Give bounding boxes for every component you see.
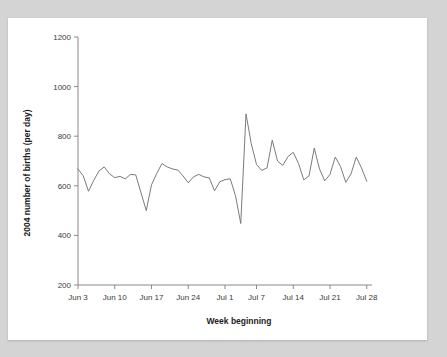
- x-axis-title: Week beginning: [206, 316, 271, 326]
- x-tick-label: Jul 1: [217, 293, 234, 302]
- x-axis: Jun 3Jun 10Jun 17Jun 24Jul 1Jul 7Jul 14J…: [68, 285, 378, 302]
- x-tick-label: Jul 21: [319, 293, 341, 302]
- chart-figure: 20040060080010001200 Jun 3Jun 10Jun 17Ju…: [8, 18, 427, 340]
- y-tick-label: 800: [58, 132, 72, 141]
- y-tick-label: 1000: [53, 83, 71, 92]
- x-tick-label: Jun 17: [139, 293, 164, 302]
- x-tick-label: Jul 14: [283, 293, 305, 302]
- series-births-per-day: [78, 114, 367, 224]
- y-tick-label: 200: [58, 281, 72, 290]
- x-tick-label: Jun 10: [103, 293, 128, 302]
- x-tick-label: Jul 28: [356, 293, 378, 302]
- page-root: 20040060080010001200 Jun 3Jun 10Jun 17Ju…: [0, 0, 447, 357]
- line-chart-icon: 20040060080010001200 Jun 3Jun 10Jun 17Ju…: [8, 18, 427, 340]
- chart-card: 20040060080010001200 Jun 3Jun 10Jun 17Ju…: [8, 18, 427, 340]
- x-tick-label: Jun 24: [176, 293, 201, 302]
- x-tick-label: Jul 7: [248, 293, 265, 302]
- series-line-births: [78, 114, 367, 224]
- y-tick-label: 600: [58, 182, 72, 191]
- y-axis-title: 2004 number of births (per day): [22, 109, 32, 236]
- y-axis: 20040060080010001200: [53, 33, 78, 290]
- y-tick-label: 400: [58, 231, 72, 240]
- y-tick-label: 1200: [53, 33, 71, 42]
- x-tick-label: Jun 3: [68, 293, 88, 302]
